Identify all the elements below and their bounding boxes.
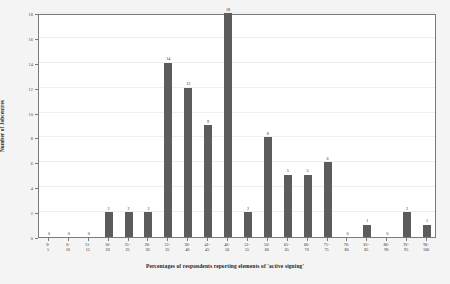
x-tick-mark xyxy=(88,238,89,241)
bar-slot: 0 xyxy=(79,15,99,237)
bar xyxy=(324,162,332,237)
bar-slot: 2 xyxy=(238,15,258,237)
bar-value-label: 0 xyxy=(88,231,90,236)
bar-slot: 6 xyxy=(318,15,338,237)
x-tick-label: 0-5 xyxy=(46,242,49,252)
bar-value-label: 0 xyxy=(48,231,50,236)
bar-slot: 8 xyxy=(258,15,278,237)
bar xyxy=(304,175,312,237)
x-axis: 0-56-1011-1516-2021-2526-3031-3536-4041-… xyxy=(38,239,436,261)
figure-canvas: Number of Jobcentres 024681012141618 000… xyxy=(0,0,450,284)
x-tick-mark xyxy=(48,238,49,241)
y-tick-label: 6 xyxy=(31,161,33,166)
bar-value-label: 0 xyxy=(386,231,388,236)
y-tick-label: 4 xyxy=(31,186,33,191)
x-tick-label-line: 45 xyxy=(204,247,209,252)
bar-value-label: 5 xyxy=(287,168,289,173)
x-tick-label-line: 10 xyxy=(66,247,70,252)
bar xyxy=(224,13,232,237)
bar-value-label: 9 xyxy=(207,119,209,124)
y-tick-label: 12 xyxy=(29,86,33,91)
bar-value-label: 1 xyxy=(426,218,428,223)
x-tick-mark xyxy=(108,238,109,241)
bar xyxy=(244,212,252,237)
x-tick-mark xyxy=(426,238,427,241)
bar-value-label: 0 xyxy=(346,231,348,236)
x-tick-mark xyxy=(167,238,168,241)
bar xyxy=(284,175,292,237)
x-tick-mark xyxy=(187,238,188,241)
x-tick-label: 16-20 xyxy=(105,242,110,252)
bar xyxy=(125,212,133,237)
x-tick-mark xyxy=(267,238,268,241)
x-tick-label-line: 55 xyxy=(244,247,249,252)
plot-area: 00022214129182855601021 xyxy=(38,14,436,238)
x-tick-label-line: 70 xyxy=(304,247,309,252)
x-tick-mark xyxy=(307,238,308,241)
y-tick-label: 10 xyxy=(29,111,33,116)
bar-slot: 1 xyxy=(417,15,437,237)
x-tick-mark xyxy=(287,238,288,241)
y-tick-label: 0 xyxy=(31,236,33,241)
bar-slot: 5 xyxy=(278,15,298,237)
x-tick-label: 36-40 xyxy=(185,242,190,252)
x-tick-label-line: 25 xyxy=(125,247,130,252)
x-axis-title: Percentages of respondents reporting ele… xyxy=(0,263,450,269)
x-tick-label-line: 15 xyxy=(85,247,90,252)
x-tick-label: 81-85 xyxy=(364,242,369,252)
x-tick-mark xyxy=(406,238,407,241)
bar-value-label: 2 xyxy=(247,206,249,211)
bar-slot: 2 xyxy=(99,15,119,237)
bar-value-label: 18 xyxy=(226,7,230,12)
bar-slot: 9 xyxy=(198,15,218,237)
bar-slot: 14 xyxy=(158,15,178,237)
y-tick-label: 8 xyxy=(31,136,33,141)
x-tick-label-line: 65 xyxy=(284,247,289,252)
bar xyxy=(105,212,113,237)
bar-slot: 1 xyxy=(357,15,377,237)
x-tick-label: 6-10 xyxy=(66,242,70,252)
x-tick-mark xyxy=(128,238,129,241)
bar-slot: 5 xyxy=(298,15,318,237)
y-tick-label: 2 xyxy=(31,211,33,216)
x-tick-label: 31-35 xyxy=(165,242,170,252)
x-tick-label: 11-15 xyxy=(85,242,90,252)
bar-value-label: 2 xyxy=(127,206,129,211)
bar xyxy=(403,212,411,237)
bar-value-label: 8 xyxy=(267,131,269,136)
gridline xyxy=(39,12,435,13)
bar xyxy=(363,225,371,237)
bar-slot: 0 xyxy=(338,15,358,237)
x-tick-label: 96-100 xyxy=(423,242,429,252)
x-tick-label: 91-95 xyxy=(403,242,408,252)
x-tick-label-line: 35 xyxy=(165,247,170,252)
x-tick-label: 26-30 xyxy=(145,242,150,252)
bar-series: 00022214129182855601021 xyxy=(39,15,435,237)
x-tick-label-line: 20 xyxy=(105,247,110,252)
bar xyxy=(144,212,152,237)
x-tick-label-line: 5 xyxy=(46,247,49,252)
bar-value-label: 12 xyxy=(186,81,190,86)
bar-slot: 0 xyxy=(59,15,79,237)
x-tick-label: 56-60 xyxy=(264,242,269,252)
x-tick-mark xyxy=(147,238,148,241)
x-tick-label: 71-75 xyxy=(324,242,329,252)
x-tick-mark xyxy=(346,238,347,241)
x-tick-label-line: 100 xyxy=(423,247,429,252)
bar xyxy=(423,225,431,237)
bar-value-label: 5 xyxy=(307,168,309,173)
bar-slot: 12 xyxy=(178,15,198,237)
bar-slot: 2 xyxy=(139,15,159,237)
bar-slot: 0 xyxy=(39,15,59,237)
x-tick-label-line: 90 xyxy=(384,247,389,252)
x-tick-label: 66-70 xyxy=(304,242,309,252)
bar xyxy=(204,125,212,237)
x-tick-mark xyxy=(227,238,228,241)
x-tick-label-line: 75 xyxy=(324,247,329,252)
bar-slot: 2 xyxy=(397,15,417,237)
x-tick-label: 61-65 xyxy=(284,242,289,252)
x-tick-label-line: 30 xyxy=(145,247,150,252)
x-tick-label-line: 85 xyxy=(364,247,369,252)
bar xyxy=(164,63,172,237)
bar xyxy=(264,137,272,237)
